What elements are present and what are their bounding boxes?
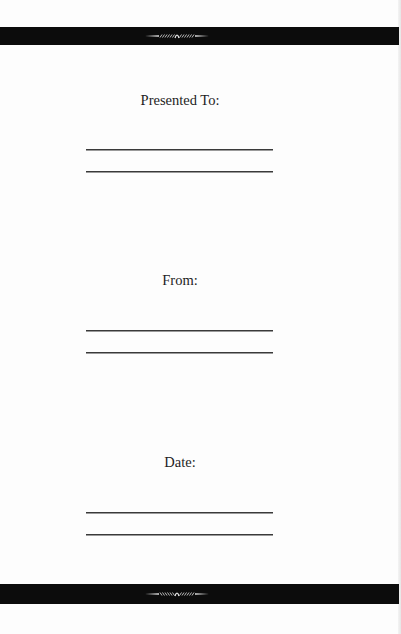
date-line-1[interactable] [86, 512, 273, 514]
ornament-flourish-icon [145, 591, 209, 597]
top-decorative-bar [0, 27, 399, 45]
presented-to-label: Presented To: [0, 92, 360, 108]
presentation-page: Presented To: From: Date: [0, 0, 401, 634]
ornament-flourish-icon [145, 33, 209, 39]
presented-to-line-2[interactable] [86, 171, 273, 173]
from-line-1[interactable] [86, 330, 273, 332]
date-line-2[interactable] [86, 534, 273, 536]
presented-to-line-1[interactable] [86, 149, 273, 151]
from-line-2[interactable] [86, 352, 273, 354]
bottom-decorative-bar [0, 584, 399, 604]
date-label: Date: [0, 454, 360, 470]
from-label: From: [0, 272, 360, 288]
